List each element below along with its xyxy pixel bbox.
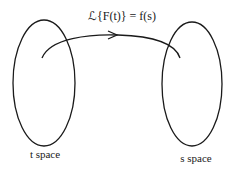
- t-space-label: t space: [30, 148, 60, 160]
- s-space-ellipse: [162, 22, 222, 146]
- s-space-label: s space: [180, 152, 211, 164]
- formula-label: ℒ{F(t)} = f(s): [88, 9, 156, 24]
- t-space-ellipse: [13, 20, 75, 146]
